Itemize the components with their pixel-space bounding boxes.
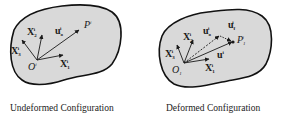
undeformed-caption: Undeformed Configuration [10,103,114,113]
deformed-panel: O1 X1i X2i X3i uoi ufi ui P1i Deformed C… [159,10,271,114]
undeformed-panel: Oi X1i X2i X3i uoi Pi Undeformed Configu… [10,5,121,113]
deformed-caption: Deformed Configuration [166,103,260,113]
undeformed-body-shape [11,5,121,85]
configuration-diagram: Oi X1i X2i X3i uoi Pi Undeformed Configu… [0,0,281,121]
point-p1-dot [231,40,234,43]
deformed-body-shape [159,10,271,88]
